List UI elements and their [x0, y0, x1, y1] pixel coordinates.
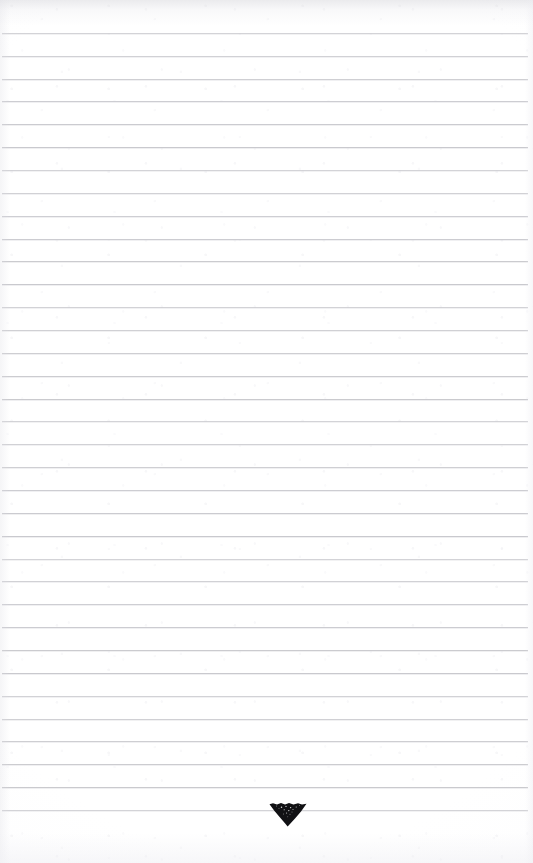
ruled-line: [2, 444, 528, 445]
ruled-line: [2, 559, 528, 560]
ruled-line: [2, 124, 528, 125]
ruled-line: [2, 284, 528, 285]
ruled-line: [2, 193, 528, 194]
ruled-line: [2, 399, 528, 400]
ruled-line: [2, 673, 528, 674]
ruled-line: [2, 490, 528, 491]
ruled-line: [2, 467, 528, 468]
ruled-line: [2, 261, 528, 262]
ruled-line: [2, 330, 528, 331]
ruled-line: [2, 810, 528, 811]
ruled-line: [2, 101, 528, 102]
ruled-lines-layer: [0, 0, 533, 863]
ruled-line: [2, 376, 528, 377]
scanned-page: [0, 0, 533, 863]
ruled-line: [2, 170, 528, 171]
ruled-line: [2, 719, 528, 720]
ruled-line: [2, 741, 528, 742]
ruled-line: [2, 147, 528, 148]
ruled-line: [2, 581, 528, 582]
ruled-line: [2, 536, 528, 537]
ruled-line: [2, 787, 528, 788]
ruled-line: [2, 33, 528, 34]
ruled-line: [2, 56, 528, 57]
ruled-line: [2, 421, 528, 422]
ruled-line: [2, 764, 528, 765]
ruled-line: [2, 604, 528, 605]
ruled-line: [2, 307, 528, 308]
ruled-line: [2, 239, 528, 240]
ruled-line: [2, 513, 528, 514]
ruled-line: [2, 650, 528, 651]
ruled-line: [2, 216, 528, 217]
ruled-line: [2, 79, 528, 80]
ruled-line: [2, 627, 528, 628]
ruled-line: [2, 696, 528, 697]
ruled-line: [2, 353, 528, 354]
